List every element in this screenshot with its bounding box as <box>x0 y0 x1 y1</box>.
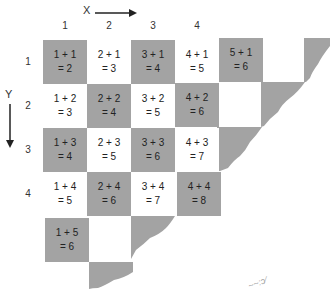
cell-expression: 3 + 1 <box>142 48 165 62</box>
cell-result: = 8 <box>192 194 206 208</box>
cell-2-2: 2 + 2 = 4 <box>87 84 131 128</box>
cell-result: = 5 <box>146 106 160 120</box>
cell-1-2: 1 + 2 = 3 <box>43 84 87 128</box>
cell-2-3: 2 + 3 = 5 <box>87 128 131 172</box>
cell-result: = 6 <box>190 105 204 119</box>
cell-4-1: 4 + 1 = 5 <box>175 40 219 84</box>
cell-2-1: 2 + 1 = 3 <box>87 40 131 84</box>
cell-3-4: 3 + 4 = 7 <box>131 172 175 216</box>
cell-expression: 1 + 4 <box>54 180 77 194</box>
cell-expression: 2 + 3 <box>98 136 121 150</box>
cell-expression: 2 + 1 <box>98 48 121 62</box>
cell-1-4: 1 + 4 = 5 <box>43 172 87 216</box>
cell-3-2: 3 + 2 = 5 <box>131 84 175 128</box>
cell-result: = 6 <box>146 150 160 164</box>
cell-result: = 6 <box>60 240 74 254</box>
cell-2-4: 2 + 4 = 6 <box>87 172 131 216</box>
cell-expression: 2 + 4 <box>98 180 121 194</box>
row-label-2: 2 <box>22 100 34 111</box>
cell-3-1: 3 + 1 = 4 <box>131 40 175 84</box>
cell-result: = 5 <box>102 150 116 164</box>
handwritten-mark: ~~:ɔ⁄ <box>247 275 268 291</box>
cell-1-1: 1 + 1 = 2 <box>43 40 87 84</box>
cell-4-4: 4 + 4 = 8 <box>177 172 221 216</box>
y-axis-label: Y <box>5 88 12 100</box>
cell-3-3: 3 + 3 = 6 <box>131 128 175 172</box>
cell-expression: 1 + 1 <box>54 48 77 62</box>
cell-expression: 4 + 2 <box>186 91 209 105</box>
cell-result: = 2 <box>58 62 72 76</box>
row-label-3: 3 <box>22 144 34 155</box>
x-axis-arrow-icon <box>95 9 137 17</box>
cell-expression: 1 + 3 <box>54 136 77 150</box>
row-label-1: 1 <box>22 56 34 67</box>
cell-result: = 4 <box>146 62 160 76</box>
cell-expression: 2 + 2 <box>98 92 121 106</box>
cell-result: = 3 <box>102 62 116 76</box>
cell-expression: 4 + 3 <box>186 136 209 150</box>
cell-1-3: 1 + 3 = 4 <box>43 128 87 172</box>
cell-expression: 3 + 4 <box>142 180 165 194</box>
y-axis-arrow-icon <box>6 104 14 148</box>
cell-expression: 4 + 1 <box>186 48 209 62</box>
column-label-3: 3 <box>131 20 175 31</box>
cell-result: = 4 <box>58 150 72 164</box>
cell-expression: 3 + 3 <box>142 136 165 150</box>
cell-result: = 7 <box>146 194 160 208</box>
cell-1-5: 1 + 5 = 6 <box>45 218 89 262</box>
cell-result: = 3 <box>58 106 72 120</box>
cell-result: = 7 <box>190 150 204 164</box>
cell-4-2: 4 + 2 = 6 <box>175 83 219 127</box>
cell-expression: 1 + 2 <box>54 92 77 106</box>
cell-5-1: 5 + 1 = 6 <box>219 38 263 82</box>
column-label-1: 1 <box>43 20 87 31</box>
column-label-2: 2 <box>87 20 131 31</box>
cell-expression: 4 + 4 <box>188 180 211 194</box>
cell-result: = 6 <box>102 194 116 208</box>
x-axis-label: X <box>83 4 90 16</box>
row-label-4: 4 <box>22 188 34 199</box>
cell-result: = 6 <box>234 60 248 74</box>
column-label-4: 4 <box>175 20 219 31</box>
cell-result: = 5 <box>190 62 204 76</box>
cell-result: = 5 <box>58 194 72 208</box>
cell-4-3: 4 + 3 = 7 <box>175 128 219 172</box>
cell-expression: 1 + 5 <box>56 226 79 240</box>
cell-result: = 4 <box>102 106 116 120</box>
cell-expression: 5 + 1 <box>230 46 253 60</box>
cell-expression: 3 + 2 <box>142 92 165 106</box>
